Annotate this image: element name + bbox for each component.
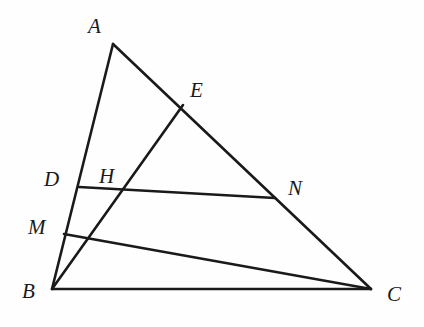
geometry-figure: A E D H M N B C <box>0 0 424 327</box>
point-label-A: A <box>88 16 101 37</box>
point-label-D: D <box>44 169 59 190</box>
point-label-H: H <box>99 166 114 187</box>
segment-MC <box>64 234 371 289</box>
cevian-BE <box>52 105 183 289</box>
side-AC <box>113 44 371 289</box>
point-label-C: C <box>387 284 401 305</box>
geometry-canvas <box>0 0 424 327</box>
point-label-N: N <box>288 178 302 199</box>
point-label-E: E <box>190 80 203 101</box>
point-label-B: B <box>22 281 35 302</box>
point-label-M: M <box>28 217 46 238</box>
segment-DN <box>79 187 275 198</box>
